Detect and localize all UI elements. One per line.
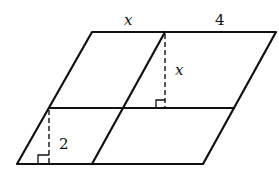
- label-height-2: 2: [59, 135, 69, 153]
- upper-right-angle-mark: [156, 100, 165, 108]
- label-top-4: 4: [215, 11, 225, 29]
- interior-slanted-line: [92, 32, 165, 164]
- diagram-canvas: x 4 x 2: [0, 0, 279, 173]
- outer-parallelogram: [17, 32, 276, 164]
- lower-right-angle-mark: [38, 155, 49, 164]
- label-top-x: x: [124, 11, 133, 29]
- label-height-x: x: [175, 61, 184, 79]
- parallelogram-diagram: x 4 x 2: [0, 0, 279, 173]
